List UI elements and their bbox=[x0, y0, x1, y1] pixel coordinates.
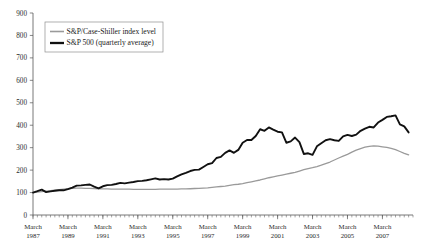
y-axis-tick-label: 200 bbox=[16, 167, 27, 175]
y-axis-tick-label: 100 bbox=[16, 189, 27, 197]
y-axis-tick-label: 700 bbox=[16, 54, 27, 62]
x-axis-year-label: 2003 bbox=[306, 232, 320, 239]
x-axis-month-label: March bbox=[269, 223, 287, 230]
line-chart: 0100200300400500600700800900 March1987Ma… bbox=[0, 0, 421, 251]
x-axis-year-label: 1987 bbox=[26, 232, 40, 239]
data-series-group bbox=[33, 115, 409, 192]
x-axis-month-label: March bbox=[304, 223, 322, 230]
x-axis-year-label: 1999 bbox=[236, 232, 250, 239]
y-axis-tick-label: 900 bbox=[16, 10, 27, 18]
chart-container: 0100200300400500600700800900 March1987Ma… bbox=[0, 0, 421, 251]
x-axis-month-label: March bbox=[129, 223, 147, 230]
series-line-sp500 bbox=[33, 115, 409, 192]
y-axis-tick-labels: 0100200300400500600700800900 bbox=[16, 10, 27, 220]
x-axis-year-label: 1989 bbox=[61, 232, 75, 239]
legend-label: S&P/Case-Shiller index level bbox=[67, 27, 156, 36]
x-axis-month-label: March bbox=[24, 223, 42, 230]
chart-legend: S&P/Case-Shiller index levelS&P 500 (qua… bbox=[45, 22, 163, 52]
y-axis: 0100200300400500600700800900 bbox=[16, 10, 33, 220]
x-axis-month-label: March bbox=[164, 223, 182, 230]
x-axis-month-label: March bbox=[59, 223, 77, 230]
y-axis-tick-label: 800 bbox=[16, 32, 27, 40]
y-axis-ticks bbox=[30, 13, 33, 215]
x-axis-year-label: 1991 bbox=[96, 232, 110, 239]
x-axis-year-label: 1997 bbox=[201, 232, 215, 239]
y-axis-tick-label: 400 bbox=[16, 122, 27, 130]
x-axis-month-label: March bbox=[199, 223, 217, 230]
x-axis-month-label: March bbox=[234, 223, 252, 230]
x-axis-year-label: 1993 bbox=[131, 232, 145, 239]
x-axis-year-label: 2007 bbox=[376, 232, 390, 239]
x-axis-tick-labels: March1987March1989March1991March1993Marc… bbox=[24, 223, 392, 239]
y-axis-tick-label: 0 bbox=[23, 212, 27, 220]
y-axis-tick-label: 600 bbox=[16, 77, 27, 85]
y-axis-tick-label: 300 bbox=[16, 144, 27, 152]
x-axis-month-label: March bbox=[94, 223, 112, 230]
x-axis-month-label: March bbox=[339, 223, 357, 230]
x-axis-year-label: 1995 bbox=[166, 232, 180, 239]
x-axis-month-label: March bbox=[374, 223, 392, 230]
series-line-case-shiller bbox=[33, 146, 409, 193]
x-axis-year-label: 2005 bbox=[341, 232, 355, 239]
x-axis: March1987March1989March1991March1993Marc… bbox=[24, 215, 413, 239]
legend-label: S&P 500 (quarterly average) bbox=[67, 38, 155, 47]
y-axis-tick-label: 500 bbox=[16, 99, 27, 107]
x-axis-year-label: 2001 bbox=[271, 232, 285, 239]
